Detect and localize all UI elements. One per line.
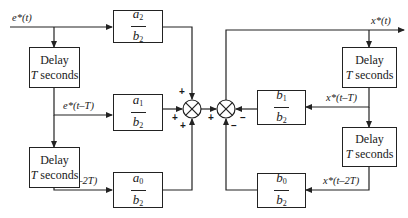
gain-fraction-a0: a0 b2 [131,171,146,210]
signal-label-input: e*(t) [12,12,32,23]
sum-left-sign-top: + [179,86,185,97]
delay-label: Delay [40,153,69,168]
sum-right-sign-bottom: – [231,120,237,131]
delay-label: Delay [355,53,384,68]
signal-label-output-delay2: x*(t–2T) [323,175,359,186]
gain-fraction-a1: a1 b2 [131,93,146,132]
summing-junction-left [183,100,201,118]
gain-block-a2: a2 b2 [113,10,163,43]
gain-block-a0: a0 b2 [113,172,163,208]
delay-block-output-1: Delay T seconds [342,47,397,88]
delay-block-output-2: Delay T seconds [342,127,397,167]
sum-left-sign-bottom: + [180,120,186,131]
signal-label-output-delay1: x*(t–T) [326,92,357,103]
delay-label: Delay [40,53,69,68]
signal-label-output: x*(t) [371,15,391,26]
summing-junction-right [217,100,235,118]
signal-label-input-delay1: e*(t–T) [63,100,94,111]
delay-unit: seconds [352,68,393,82]
sum-right-sign-right: – [240,112,246,123]
gain-block-b0: b0 b2 [257,173,306,208]
delay-block-input-2: Delay T seconds [29,147,80,188]
delay-unit: seconds [37,168,78,182]
delay-block-input-1: Delay T seconds [29,47,80,88]
delay-unit: seconds [37,68,78,82]
gain-fraction-b0: b0 b2 [274,171,289,210]
gain-block-b1: b1 b2 [257,90,306,125]
sum-right-sign-left: + [208,112,214,123]
delay-unit: seconds [352,147,393,161]
sum-left-sign-left: + [172,112,178,123]
delay-label: Delay [355,132,384,147]
gain-fraction-a2: a2 b2 [131,7,146,46]
gain-block-a1: a1 b2 [113,94,163,131]
gain-fraction-b1: b1 b2 [274,88,289,127]
